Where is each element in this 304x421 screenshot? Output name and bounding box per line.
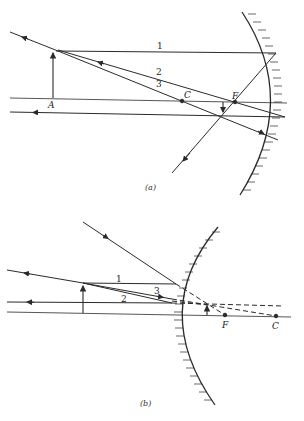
- label-a-object-base: A: [47, 100, 55, 110]
- label-b-focus: F: [221, 320, 229, 330]
- ray-1-b: [83, 283, 176, 284]
- ray-2-reflected-a: [10, 112, 285, 117]
- figure-b: [7, 222, 291, 405]
- ray-3-a: [58, 51, 278, 140]
- ray-return-b: [7, 270, 83, 283]
- ray-1-a: [56, 51, 276, 53]
- caption-a: (a): [145, 183, 156, 192]
- label-b-center: C: [272, 321, 279, 331]
- label-b-ray1: 1: [116, 274, 122, 284]
- ray-2-a: [58, 50, 285, 117]
- ray-incoming-b: [83, 222, 176, 284]
- virtual-rays-b: [172, 284, 283, 316]
- label-a-ray3: 3: [156, 79, 162, 89]
- label-b-ray3: 3: [154, 286, 160, 296]
- ray-diagram: A C F 1 2 3 (a): [0, 0, 304, 421]
- principal-axis-b: [7, 312, 291, 317]
- label-a-ray2: 2: [156, 67, 162, 77]
- label-a-center: C: [184, 90, 191, 100]
- center-point-b: [274, 314, 278, 318]
- caption-b: (b): [140, 399, 151, 408]
- label-a-ray1: 1: [157, 41, 163, 51]
- concave-mirror: [240, 12, 271, 195]
- label-b-ray2: 2: [121, 294, 127, 304]
- focus-point-b: [223, 313, 227, 317]
- ray-return-a: [10, 32, 58, 51]
- label-a-focus: F: [231, 91, 239, 101]
